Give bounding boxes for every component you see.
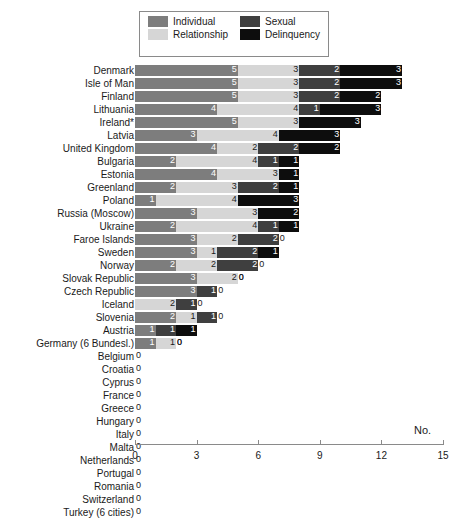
chart-row: Bulgaria2411 bbox=[0, 155, 464, 168]
bar-value-label: 2 bbox=[170, 181, 175, 192]
bar-segment-individual: 3 bbox=[135, 130, 197, 141]
bar-segment-delinquency: 3 bbox=[238, 195, 300, 206]
chart-row: Isle of Man5323 bbox=[0, 77, 464, 90]
category-label: Slovenia bbox=[6, 312, 134, 323]
category-label: Denmark bbox=[6, 65, 134, 76]
category-label: Latvia bbox=[6, 130, 134, 141]
x-axis: 03691215 bbox=[135, 444, 443, 445]
bar-segment-individual: 4 bbox=[135, 143, 217, 154]
bar-value-label: 4 bbox=[211, 103, 216, 114]
bar-segment-individual: 3 bbox=[135, 234, 197, 245]
category-label: Switzerland bbox=[6, 494, 134, 505]
chart-row: Iceland0210 bbox=[0, 298, 464, 311]
bar-value-label: 3 bbox=[232, 181, 237, 192]
category-label: Finland bbox=[6, 91, 134, 102]
bar-value-label: 4 bbox=[211, 142, 216, 153]
x-axis-tick bbox=[197, 440, 198, 445]
bar-value-label: 4 bbox=[293, 103, 298, 114]
chart-row: Croatia0 bbox=[0, 363, 464, 376]
category-label: Poland bbox=[6, 195, 134, 206]
chart-row: Czech Republic3010 bbox=[0, 285, 464, 298]
bar-segment-sexual: 1 bbox=[156, 325, 177, 336]
bar-value-label: 2 bbox=[252, 142, 257, 153]
category-label: Germany (6 Bundesl.) bbox=[6, 338, 134, 349]
bar-segment-individual: 1 bbox=[135, 195, 156, 206]
bar-value-label: 0 bbox=[136, 375, 141, 388]
stacked-bar: 4301 bbox=[135, 169, 299, 180]
chart-row: Switzerland0 bbox=[0, 493, 464, 506]
category-label: Portugal bbox=[6, 468, 134, 479]
bar-segment-relationship: 1 bbox=[176, 312, 197, 323]
bar-segment-relationship: 4 bbox=[197, 130, 279, 141]
bar-segment-relationship: 2 bbox=[217, 143, 258, 154]
stacked-bar: 3200 bbox=[135, 273, 238, 284]
bar-value-label: 3 bbox=[191, 233, 196, 244]
chart-row: Sweden3121 bbox=[0, 246, 464, 259]
legend-entry: Sexual bbox=[240, 16, 322, 27]
chart-row: Portugal0 bbox=[0, 467, 464, 480]
chart-row: Belgium0 bbox=[0, 350, 464, 363]
bar-value-label: 3 bbox=[273, 168, 278, 179]
chart-row: Hungary0 bbox=[0, 415, 464, 428]
bar-segment-sexual: 1 bbox=[299, 104, 320, 115]
category-label: Slovak Republic bbox=[6, 273, 134, 284]
bar-segment-delinquency: 3 bbox=[279, 130, 341, 141]
bar-value-label: 0 bbox=[239, 272, 244, 283]
chart-row: Estonia4301 bbox=[0, 168, 464, 181]
bar-value-label: 2 bbox=[170, 259, 175, 270]
bar-value-label: 2 bbox=[170, 298, 175, 309]
bar-segment-sexual: 1 bbox=[197, 286, 218, 297]
bar-segment-individual: 5 bbox=[135, 78, 238, 89]
bar-segment-sexual: 1 bbox=[258, 221, 279, 232]
bar-value-label: 1 bbox=[191, 311, 196, 322]
legend-entry: Relationship bbox=[148, 29, 230, 40]
category-label: Bulgaria bbox=[6, 156, 134, 167]
legend-label: Delinquency bbox=[265, 29, 320, 40]
x-axis-tick bbox=[320, 440, 321, 445]
bar-value-label: 2 bbox=[211, 259, 216, 270]
bar-segment-relationship: 2 bbox=[176, 260, 217, 271]
x-axis-tick-label: 0 bbox=[132, 450, 138, 461]
bar-segment-delinquency: 1 bbox=[279, 169, 300, 180]
bar-value-label: 1 bbox=[211, 285, 216, 296]
bar-value-label: 4 bbox=[252, 220, 257, 231]
chart-row: Slovenia2110 bbox=[0, 311, 464, 324]
bar-value-label: 3 bbox=[334, 129, 339, 140]
stacked-bar: 5323 bbox=[135, 78, 402, 89]
chart-row: Faroe Islands3220 bbox=[0, 233, 464, 246]
bar-segment-relationship: 2 bbox=[197, 234, 238, 245]
stacked-bar: 1100 bbox=[135, 338, 176, 349]
bar-segment-sexual: 2 bbox=[217, 260, 258, 271]
bar-segment-sexual: 2 bbox=[299, 78, 340, 89]
legend-label: Sexual bbox=[265, 16, 296, 27]
bar-value-label: 4 bbox=[273, 129, 278, 140]
bar-value-label: 1 bbox=[273, 220, 278, 231]
category-label: Ireland* bbox=[6, 117, 134, 128]
x-axis-tick-label: 15 bbox=[437, 450, 448, 461]
stacked-bar: 3010 bbox=[135, 286, 217, 297]
bar-value-label: 1 bbox=[191, 298, 196, 309]
chart-row: Finland5322 bbox=[0, 90, 464, 103]
category-label: Netherlands bbox=[6, 455, 134, 466]
stacked-bar: 4413 bbox=[135, 104, 381, 115]
bar-segment-delinquency: 3 bbox=[299, 117, 361, 128]
bar-value-label: 0 bbox=[136, 349, 141, 362]
stacked-bar: 2321 bbox=[135, 182, 299, 193]
bar-segment-sexual: 2 bbox=[217, 247, 258, 258]
bar-segment-delinquency: 2 bbox=[299, 143, 340, 154]
category-label: Cyprus bbox=[6, 377, 134, 388]
x-axis-tick-label: 12 bbox=[376, 450, 387, 461]
chart-row: Russia (Moscow)3302 bbox=[0, 207, 464, 220]
bar-value-label: 2 bbox=[252, 246, 257, 257]
bar-value-label: 1 bbox=[293, 168, 298, 179]
bar-value-label: 1 bbox=[150, 324, 155, 335]
bar-value-label: 2 bbox=[232, 233, 237, 244]
bar-value-label: 0 bbox=[136, 479, 141, 492]
bar-segment-individual: 3 bbox=[135, 286, 197, 297]
stacked-bar: 3302 bbox=[135, 208, 299, 219]
legend-swatch-icon bbox=[148, 29, 168, 40]
bar-value-label: 0 bbox=[136, 505, 141, 518]
bar-value-label: 5 bbox=[232, 77, 237, 88]
bar-segment-individual: 5 bbox=[135, 65, 238, 76]
category-label: Greece bbox=[6, 403, 134, 414]
